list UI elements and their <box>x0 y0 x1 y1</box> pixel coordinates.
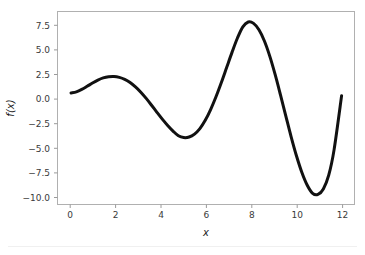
y-axis-title: f(x) <box>5 99 16 116</box>
x-tick-label: 10 <box>291 210 303 220</box>
figure-background <box>0 0 365 255</box>
footer-divider <box>8 246 357 247</box>
figure-canvas: 7.5 5.0 2.5 0.0 −2.5 −5.0 −7.5 −10.0 0 2… <box>0 0 365 255</box>
y-tick-label: −2.5 <box>28 119 50 129</box>
y-tick-label: 5.0 <box>36 45 51 55</box>
y-tick-label: 7.5 <box>36 21 50 31</box>
x-axis-title: x <box>202 227 209 238</box>
x-tick-label: 4 <box>158 210 164 220</box>
y-tick-label: −5.0 <box>28 144 50 154</box>
y-tick-label: −10.0 <box>22 193 50 203</box>
x-tick-label: 6 <box>204 210 210 220</box>
x-tick-label: 12 <box>337 210 348 220</box>
x-tick-label: 0 <box>67 210 73 220</box>
x-tick-label: 2 <box>113 210 119 220</box>
y-tick-label: 2.5 <box>36 70 50 80</box>
y-tick-label: −7.5 <box>28 168 50 178</box>
y-tick-label: 0.0 <box>36 94 51 104</box>
line-chart: 7.5 5.0 2.5 0.0 −2.5 −5.0 −7.5 −10.0 0 2… <box>0 0 365 255</box>
x-tick-label: 8 <box>249 210 255 220</box>
